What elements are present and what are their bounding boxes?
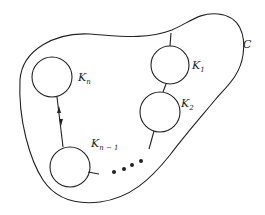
connector-c-k1 [170, 33, 171, 46]
label-k-n: Kn [77, 71, 91, 86]
circle-k-n [32, 57, 72, 97]
circle-k-n-minus-1 [50, 147, 90, 187]
circle-k-2 [140, 92, 180, 132]
connector-k2-tail [149, 131, 154, 149]
label-k-1: K1 [191, 59, 205, 74]
circle-k-1 [151, 46, 189, 84]
diagram-canvas: C Kn K1 K2 Kn − 1 [0, 0, 265, 215]
connector-k1-k2 [163, 84, 166, 92]
label-k-2: K2 [180, 97, 194, 112]
ellipsis-dot [112, 170, 116, 174]
arrowhead-up-icon [57, 106, 61, 113]
ellipsis-dot [139, 159, 143, 163]
ellipsis-dot [122, 167, 126, 171]
region-c-boundary [20, 14, 244, 203]
ellipsis-dot [130, 163, 134, 167]
label-region-c: C [243, 38, 252, 51]
label-k-n-minus-1: Kn − 1 [90, 137, 119, 152]
